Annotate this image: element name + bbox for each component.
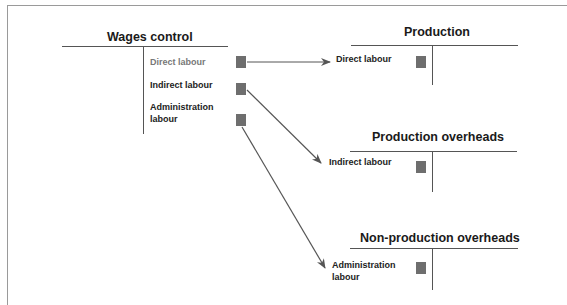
flow-arrow-administration-labour xyxy=(242,127,325,268)
flow-arrow-indirect-labour xyxy=(247,90,321,163)
